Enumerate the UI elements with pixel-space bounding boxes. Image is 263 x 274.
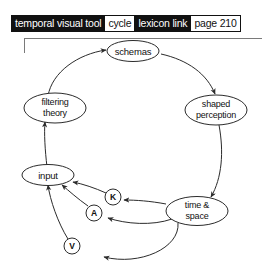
edge-a-to-input [62, 185, 88, 206]
node-filtering-theory[interactable]: filtering theory [24, 93, 86, 123]
a-label: A [91, 208, 97, 218]
shaped-perception-label-line2: perception [196, 110, 236, 120]
time-space-label-line2: space [185, 211, 208, 221]
edge-k-to-input [73, 182, 106, 193]
edge-time-space-to-v [104, 223, 178, 259]
node-schemas[interactable]: schemas [107, 41, 159, 62]
edge-schemas-to-shaped-perception [161, 54, 215, 94]
v-label: V [69, 241, 75, 251]
page-canvas: temporal visual tool cycle lexicon link … [0, 0, 263, 274]
node-a[interactable]: A [86, 205, 102, 221]
filtering-theory-label-line2: theory [43, 108, 68, 118]
edge-shaped-perception-to-time-space [211, 125, 222, 197]
edge-filtering-theory-to-schemas [48, 50, 106, 96]
edge-time-space-to-k [124, 200, 166, 204]
node-time-space[interactable]: time & space [166, 197, 228, 226]
node-input[interactable]: input [22, 165, 74, 186]
filtering-theory-label-line1: filtering [41, 97, 68, 107]
schemas-label: schemas [115, 46, 152, 57]
input-label: input [38, 170, 58, 181]
k-label: K [110, 192, 117, 202]
node-shaped-perception[interactable]: shaped perception [185, 95, 247, 125]
node-v[interactable]: V [64, 238, 80, 254]
cycle-diagram: schemas shaped perception filtering theo… [0, 0, 263, 274]
edge-v-to-input [48, 185, 68, 239]
shaped-perception-label-line1: shaped [202, 99, 231, 109]
node-k[interactable]: K [105, 189, 121, 205]
edge-time-space-to-a [108, 218, 172, 223]
time-space-label-line1: time & [185, 200, 210, 210]
edge-input-to-filtering-theory [45, 122, 47, 167]
